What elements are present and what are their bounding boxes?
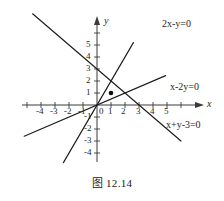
y-tick-label-1: 1 xyxy=(86,88,91,97)
y-tick-label-neg1: -1 xyxy=(84,112,92,121)
y-tick-label-3: 3 xyxy=(86,64,91,73)
y-tick-label-neg4: -4 xyxy=(84,148,92,157)
x-tick-label-1: 1 xyxy=(108,107,113,116)
y-tick-label-4: 4 xyxy=(86,52,91,61)
figure-caption: 图 12.14 xyxy=(0,174,224,190)
equation-label-x-minus-2y: x-2y=0 xyxy=(170,82,199,92)
x-tick-label-3: 3 xyxy=(136,107,141,116)
line-x-minus-2y-equals-0 xyxy=(24,76,165,137)
y-tick-label-neg2: -2 xyxy=(84,124,92,133)
equation-label-x-plus-y-minus-3: x+y-3=0 xyxy=(166,120,201,130)
y-tick-label-2: 2 xyxy=(86,76,91,85)
origin-label: 0 xyxy=(99,107,104,116)
x-axis-arrow-icon xyxy=(195,102,204,108)
x-tick-label-neg4: -4 xyxy=(36,107,44,116)
x-tick-label-neg3: -3 xyxy=(50,107,58,116)
y-axis-label: y xyxy=(104,16,108,26)
x-tick-label-2: 2 xyxy=(121,107,126,116)
figure-container: y x 0 1 2 3 4 5 -1 -2 -3 -4 1 2 3 4 5 -1… xyxy=(0,0,224,201)
x-tick-label-4: 4 xyxy=(150,107,155,116)
line-x-plus-y-minus-3-equals-0 xyxy=(33,14,181,141)
y-axis-arrow-icon xyxy=(94,16,100,25)
solution-point-marker xyxy=(109,91,114,96)
x-tick-label-5: 5 xyxy=(164,107,169,116)
equation-label-2x-minus-y: 2x-y=0 xyxy=(162,19,191,29)
line-2x-minus-y-equals-0 xyxy=(63,43,133,163)
coordinate-plane-graphic xyxy=(0,0,224,201)
y-tick-label-5: 5 xyxy=(86,40,91,49)
x-axis-label: x xyxy=(207,99,211,109)
x-tick-label-neg2: -2 xyxy=(64,107,72,116)
y-tick-label-neg3: -3 xyxy=(84,136,92,145)
